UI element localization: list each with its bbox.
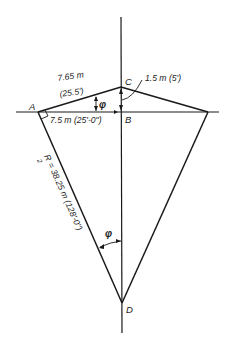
phi-bottom-symbol: φ [105,228,112,239]
ab-dimension-arrow [114,110,118,114]
segment-ad [38,112,122,303]
phi-bottom-arc [99,239,121,249]
radius-label: R 2 = 38.25 m (128'-0") [36,153,85,235]
diagram-figure: A B C D 7.65 m (25.5') 7.5 m (25'-0") 1.… [0,0,236,347]
point-d-label: D [126,304,133,315]
ac-length-imperial: (25.5') [59,86,84,99]
point-a-label: A [28,101,35,112]
ac-length-metric: 7.65 m [57,69,84,83]
ab-length: 7.5 m (25'-0") [50,115,102,125]
point-c-label: C [125,76,132,87]
point-b-label: B [125,114,132,125]
segment-ce [121,87,208,112]
vertical-axis-line [121,17,122,333]
radius-value: = 38.25 m (128'-0") [46,161,85,232]
diagram-canvas: A B C D 7.65 m (25.5') 7.5 m (25'-0") 1.… [0,0,236,347]
phi-top-dimension [94,96,98,111]
phi-top-symbol: φ [99,99,106,110]
segment-ed [122,112,208,303]
radius-subscript: 2 [36,157,44,164]
bc-height: 1.5 m (5') [145,73,181,83]
